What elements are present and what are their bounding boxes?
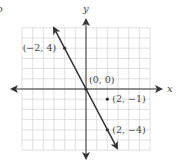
point-label: (2, −4)	[112, 124, 146, 135]
data-point	[106, 128, 109, 131]
point-label: (0, 0)	[89, 74, 115, 85]
y-axis-label: y	[82, 3, 89, 14]
point-label: (−2, 4)	[23, 42, 57, 53]
data-point	[106, 98, 109, 101]
x-axis-label: x	[167, 83, 173, 94]
coordinate-plane: x y o (−2, 4)(0, 0)(2, −1)(2, −4)	[0, 0, 178, 168]
data-point	[63, 47, 66, 50]
corner-fragment: o	[0, 3, 3, 14]
data-point	[84, 87, 87, 90]
point-label: (2, −1)	[112, 93, 146, 104]
